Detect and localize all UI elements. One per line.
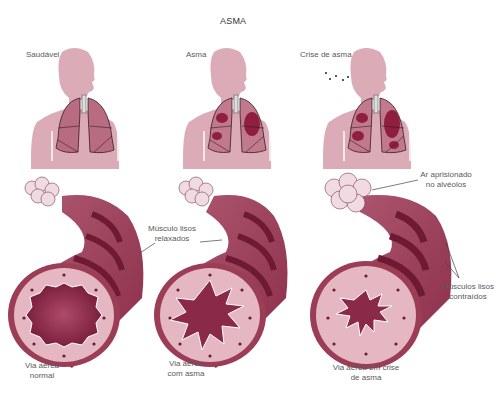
airway-label-line-1: Via aérea (22, 361, 62, 371)
panel-label-healthy: Saudável (26, 50, 59, 60)
panel-label-asthma-attack: Crise de asma (300, 50, 352, 60)
airway-label-line-2: com asma (166, 369, 206, 379)
airway-label-line-1: Via aérea em crise (326, 363, 406, 373)
asthma-attack-torso-figure (323, 48, 411, 169)
wheeze-dots-icon (325, 72, 349, 81)
alveoli-cluster-icon (325, 173, 371, 212)
annotation-line-1: Músculo lisos (144, 224, 200, 234)
annotation-trapped-air: Ar aprisionado no alvéolos (418, 170, 474, 190)
airway-label-line-2: normal (22, 371, 62, 381)
asthma-attack-airway-illustration (310, 173, 451, 369)
panel-label-asthma: Asma (186, 50, 206, 60)
asthma-illustration (0, 0, 501, 393)
asthma-torso-figure (183, 48, 271, 169)
asthma-airway-illustration (154, 177, 288, 368)
annotation-contracted-muscle: Músculos lisos contraídos (440, 282, 496, 302)
airway-label-line-2: de asma (326, 373, 406, 383)
annotation-relaxed-muscle: Músculo lisos relaxados (144, 224, 200, 244)
annotation-line-2: contraídos (440, 292, 496, 302)
annotation-line-2: no alvéolos (418, 180, 474, 190)
annotation-line-2: relaxados (144, 234, 200, 244)
annotation-line-1: Ar aprisionado (418, 170, 474, 180)
airway-label-normal: Via aérea normal (22, 361, 62, 381)
healthy-torso-figure (31, 48, 119, 169)
alveoli-cluster-icon (25, 177, 59, 206)
normal-airway-illustration (8, 177, 143, 368)
airway-label-line-1: Via aérea (166, 359, 206, 369)
airway-label-asthma: Via aérea com asma (166, 359, 206, 379)
airway-label-attack: Via aérea em crise de asma (326, 363, 406, 383)
alveoli-cluster-icon (179, 177, 213, 206)
annotation-line-1: Músculos lisos (440, 282, 496, 292)
